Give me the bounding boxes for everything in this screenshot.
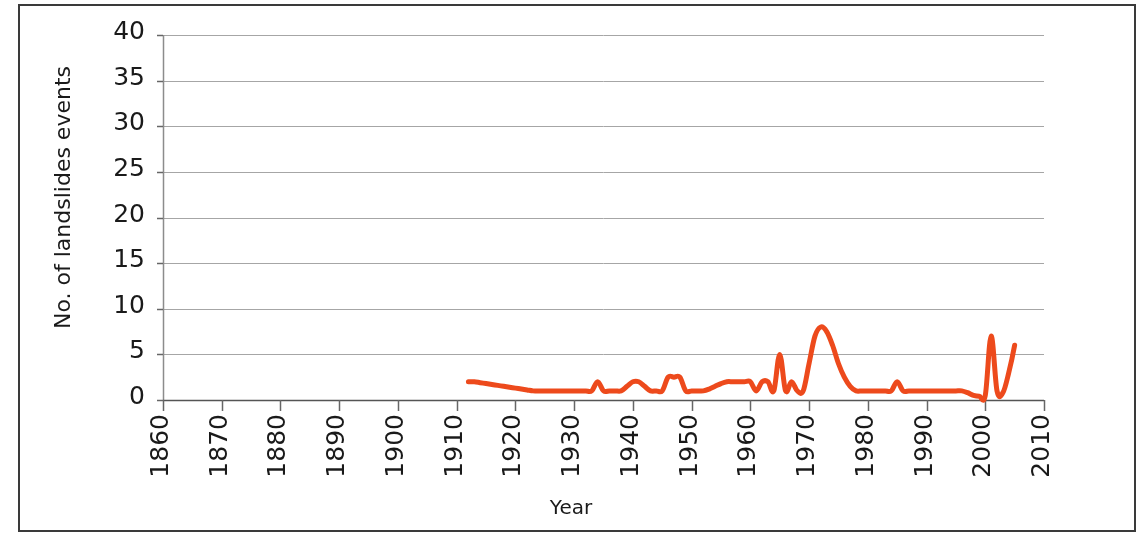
x-tick-label: 2000 xyxy=(969,414,994,478)
y-tick-label: 15 xyxy=(75,246,145,271)
y-axis-title-label: No. of landslides events xyxy=(50,66,75,329)
x-tick-label: 2010 xyxy=(1028,414,1053,478)
x-tick-label: 1890 xyxy=(323,414,348,478)
x-tick-label: 1980 xyxy=(852,414,877,478)
y-tick-label: 35 xyxy=(75,64,145,89)
x-axis-title: Year xyxy=(0,495,1142,519)
x-tick-label: 1880 xyxy=(264,414,289,478)
x-tick-label: 1950 xyxy=(676,414,701,478)
x-tick-label: 1910 xyxy=(441,414,466,478)
x-tick-label: 1870 xyxy=(206,414,231,478)
y-tick-label: 0 xyxy=(75,383,145,408)
y-tick-label: 20 xyxy=(75,201,145,226)
x-tick-label: 1900 xyxy=(382,414,407,478)
x-tick-label: 1930 xyxy=(558,414,583,478)
x-tick-label: 1970 xyxy=(793,414,818,478)
x-tick-label: 1990 xyxy=(911,414,936,478)
y-tick-label: 30 xyxy=(75,109,145,134)
y-tick-label: 5 xyxy=(75,337,145,362)
x-tick-label: 1940 xyxy=(617,414,642,478)
y-tick-label: 25 xyxy=(75,155,145,180)
x-tick-label: 1920 xyxy=(499,414,524,478)
x-tick-label: 1860 xyxy=(147,414,172,478)
y-tick-label: 40 xyxy=(75,18,145,43)
x-tick-label: 1960 xyxy=(734,414,759,478)
y-tick-label: 10 xyxy=(75,292,145,317)
